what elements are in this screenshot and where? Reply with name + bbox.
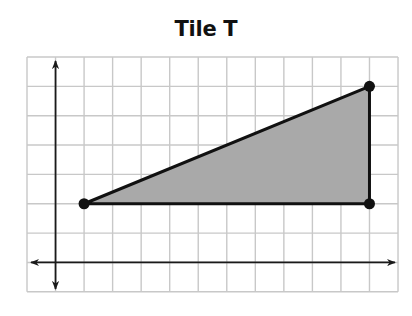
vertex-point	[364, 81, 375, 92]
vertex-point	[79, 198, 90, 209]
vertex-point	[364, 198, 375, 209]
coordinate-grid	[0, 0, 412, 316]
